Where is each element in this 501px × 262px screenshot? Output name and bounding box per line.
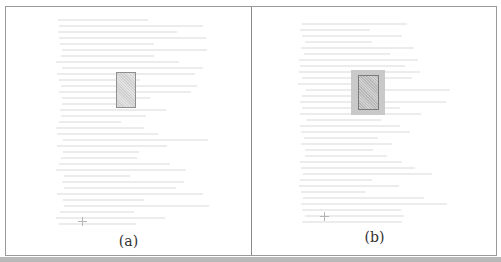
faint-text-line: [62, 97, 151, 99]
faint-text-line: [306, 119, 381, 121]
faint-text-line: [64, 187, 177, 189]
faint-text-line: [300, 29, 370, 31]
crosshair-marker-b: [320, 212, 329, 221]
faint-text-line: [56, 61, 179, 63]
faint-text-line: [59, 121, 121, 123]
highlight-region-b: [358, 75, 379, 110]
faint-text-line: [56, 169, 186, 171]
faint-text-line: [301, 191, 365, 193]
faint-text-line: [56, 127, 144, 129]
faint-text-line: [57, 193, 203, 195]
faint-text-line: [64, 175, 130, 177]
faint-text-line: [302, 209, 401, 211]
faint-text-line: [305, 149, 372, 151]
faint-text-line: [304, 137, 378, 139]
faint-document-page-a: [56, 19, 206, 224]
panel-a: (a): [6, 7, 251, 255]
figure-frame: (a) (b): [5, 6, 497, 256]
faint-document-page-b: [298, 23, 453, 223]
faint-text-line: [63, 151, 139, 153]
faint-text-line: [62, 181, 183, 183]
faint-text-line: [303, 197, 424, 199]
faint-text-line: [59, 223, 136, 225]
faint-text-line: [300, 125, 400, 127]
faint-text-line: [58, 31, 177, 33]
faint-text-line: [59, 25, 203, 27]
faint-text-line: [304, 53, 390, 55]
faint-text-line: [299, 59, 418, 61]
faint-text-line: [61, 157, 137, 159]
faint-text-line: [302, 23, 406, 25]
crosshair-marker-a: [78, 217, 87, 226]
faint-text-line: [63, 139, 207, 141]
bottom-strip: [0, 257, 501, 262]
faint-text-line: [59, 37, 206, 39]
caption-a: (a): [6, 233, 251, 249]
faint-text-line: [302, 35, 402, 37]
faint-text-line: [305, 41, 372, 43]
caption-b: (b): [252, 229, 497, 245]
faint-text-line: [300, 65, 405, 67]
faint-text-line: [61, 55, 154, 57]
faint-text-line: [300, 179, 372, 181]
faint-text-line: [60, 109, 166, 111]
faint-text-line: [58, 19, 148, 21]
faint-text-line: [301, 167, 415, 169]
faint-text-line: [305, 155, 386, 157]
faint-text-line: [61, 115, 146, 117]
faint-text-line: [299, 185, 400, 187]
faint-text-line: [301, 131, 410, 133]
faint-text-line: [57, 145, 167, 147]
faint-text-line: [301, 143, 393, 145]
highlight-region-a: [116, 72, 136, 108]
faint-text-line: [57, 133, 158, 135]
faint-text-line: [56, 217, 165, 219]
faint-text-line: [300, 161, 402, 163]
faint-text-line: [302, 221, 403, 223]
panel-b: (b): [252, 7, 497, 255]
faint-text-line: [60, 211, 134, 213]
faint-text-line: [64, 205, 209, 207]
faint-text-line: [62, 49, 208, 51]
margin-region-b: [351, 70, 385, 115]
faint-text-line: [301, 47, 414, 49]
faint-text-line: [303, 173, 431, 175]
faint-text-line: [63, 199, 144, 201]
faint-text-line: [301, 203, 447, 205]
faint-text-line: [62, 67, 203, 69]
faint-text-line: [59, 163, 170, 165]
faint-text-line: [60, 43, 154, 45]
